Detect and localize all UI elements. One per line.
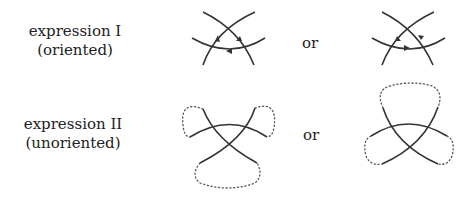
arrow-icon: [404, 45, 410, 51]
arrow-icon: [418, 35, 424, 40]
oriented-diagram-2: [372, 12, 445, 65]
unoriented-diagram-2: [365, 83, 453, 164]
unoriented-diagram-1: [183, 106, 275, 188]
knot-diagrams: [0, 0, 472, 198]
oriented-diagram-1: [192, 12, 265, 65]
